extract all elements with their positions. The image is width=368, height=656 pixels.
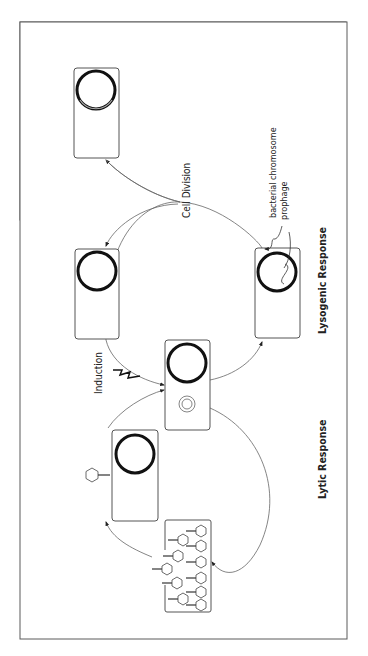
induction-label: Induction bbox=[93, 352, 104, 394]
cell-division-label: Cell Division bbox=[181, 163, 192, 218]
lysogen-cell bbox=[255, 248, 300, 338]
lysogenic-response-label: Lysogenic Response bbox=[316, 227, 328, 334]
lambda-cycle-diagram: Cell Division bacterial chromosome proph… bbox=[0, 0, 368, 656]
central-cell bbox=[165, 340, 210, 430]
bacterial-chromosome-label: bacterial chromosome bbox=[268, 127, 278, 218]
daughter-cell-2 bbox=[74, 68, 119, 158]
lytic-response-label: Lytic Response bbox=[316, 420, 328, 499]
daughter-cell-1 bbox=[75, 249, 119, 339]
prophage-label: prophage bbox=[279, 181, 289, 220]
